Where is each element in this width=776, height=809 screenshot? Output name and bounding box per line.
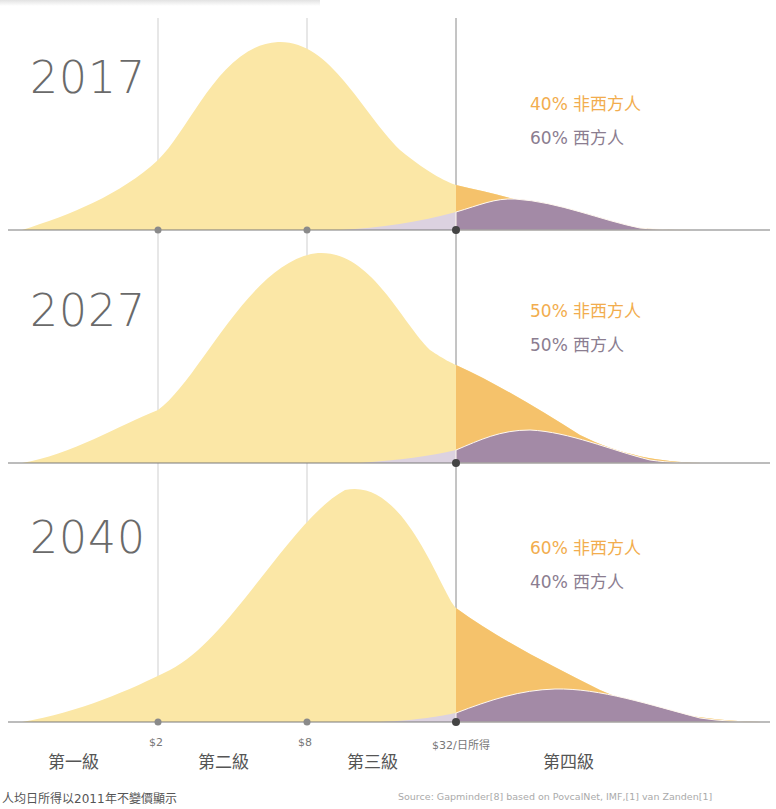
- x-tick-2: $2: [149, 736, 163, 749]
- income-distribution-chart: [0, 0, 776, 809]
- legend-2017: 40% 非西方人 60% 西方人: [530, 87, 641, 155]
- tick-marker-32: [452, 459, 460, 467]
- legend-2040: 60% 非西方人 40% 西方人: [530, 531, 641, 599]
- tick-marker-32: [452, 718, 460, 726]
- level-2-label: 第二級: [198, 748, 249, 773]
- legend-western: 60% 西方人: [530, 121, 641, 155]
- western-area-2017: [456, 199, 690, 230]
- legend-western: 40% 西方人: [530, 565, 641, 599]
- legend-non-western: 60% 非西方人: [530, 531, 641, 565]
- year-label-2017: 2017: [30, 52, 146, 103]
- footnote: 人均日所得以2011年不變價顯示: [2, 789, 177, 806]
- legend-2027: 50% 非西方人 50% 西方人: [530, 294, 641, 362]
- tick-marker-2: [155, 719, 162, 726]
- year-label-2040: 2040: [30, 512, 146, 563]
- tick-marker-8: [304, 227, 311, 234]
- legend-western: 50% 西方人: [530, 328, 641, 362]
- legend-non-western: 50% 非西方人: [530, 294, 641, 328]
- level-3-label: 第三級: [347, 748, 398, 773]
- year-label-2027: 2027: [30, 285, 146, 336]
- tick-marker-32: [452, 226, 460, 234]
- x-tick-8: $8: [298, 736, 312, 749]
- x-tick-32: $32/日所得: [432, 736, 490, 752]
- legend-non-western: 40% 非西方人: [530, 87, 641, 121]
- level-4-label: 第四級: [543, 748, 594, 773]
- tick-marker-2: [155, 227, 162, 234]
- source-credit: Source: Gapminder[8] based on PovcalNet,…: [398, 791, 712, 802]
- tick-marker-8: [304, 719, 311, 726]
- level-1-label: 第一級: [48, 748, 99, 773]
